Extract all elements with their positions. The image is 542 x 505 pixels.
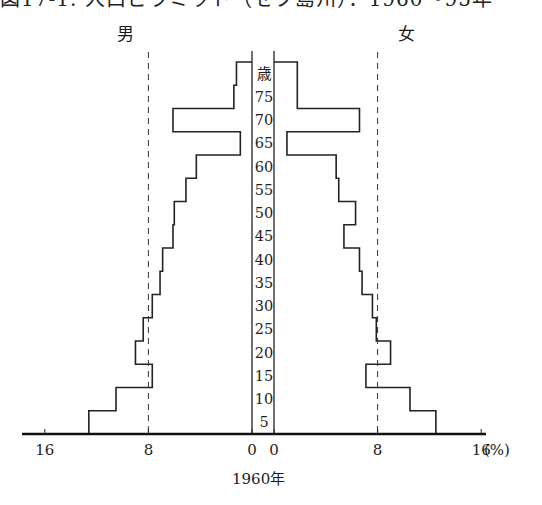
- age-label: 55: [255, 182, 273, 198]
- age-label: 5: [259, 414, 268, 430]
- age-label: 40: [255, 252, 273, 268]
- x-tick-label-right: 0: [269, 441, 279, 459]
- left-bars-男: [89, 62, 252, 434]
- age-label: 30: [255, 298, 273, 314]
- age-label: 50: [255, 205, 273, 221]
- age-label: 60: [255, 159, 273, 175]
- x-tick-label-right: 8: [373, 441, 383, 459]
- percent-unit-label: (%): [484, 441, 510, 459]
- population-pyramid-chart: 16800816(%)51015202530354045505560657075…: [0, 0, 542, 505]
- x-tick-label-left: 8: [144, 441, 154, 459]
- age-label: 歳: [257, 66, 271, 82]
- age-label: 10: [255, 391, 273, 407]
- age-label: 75: [255, 89, 273, 105]
- right-bars-女: [274, 62, 436, 434]
- year-label: 1960年: [232, 467, 285, 488]
- age-label: 65: [255, 135, 273, 151]
- age-label: 45: [255, 228, 273, 244]
- age-label: 25: [255, 321, 273, 337]
- age-label: 20: [255, 345, 273, 361]
- x-tick-label-left: 16: [35, 441, 54, 459]
- x-tick-label-left: 0: [247, 441, 257, 459]
- age-label: 35: [255, 275, 273, 291]
- age-label: 70: [255, 112, 273, 128]
- age-label: 15: [255, 368, 273, 384]
